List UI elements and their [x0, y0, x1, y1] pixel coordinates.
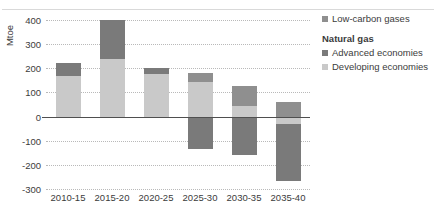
gridline: [46, 189, 310, 190]
bar-group[interactable]: 2035-40: [276, 20, 301, 189]
x-axis-tick-label: 2015-20: [95, 192, 130, 203]
zero-axis-line: [42, 117, 310, 118]
x-axis-tick-label: 2030-35: [227, 192, 262, 203]
bar-segment[interactable]: [188, 82, 213, 117]
x-axis-tick-label: 2025-30: [183, 192, 218, 203]
y-axis-tick-label: -100: [1, 135, 41, 146]
legend-label-advanced-economies: Advanced economies: [332, 47, 423, 58]
x-axis-tick-label: 2035-40: [271, 192, 306, 203]
legend-swatch-icon-advanced: [322, 50, 328, 56]
bar-segment[interactable]: [188, 117, 213, 150]
gridline: [46, 92, 310, 93]
bar-segment[interactable]: [100, 20, 125, 59]
x-axis-tick-label: 2010-15: [51, 192, 86, 203]
bar-segment[interactable]: [232, 106, 257, 117]
bar-segment[interactable]: [276, 117, 301, 124]
legend-item-developing-economies: Developing economies: [322, 60, 434, 73]
y-axis-tick-label: 400: [1, 15, 41, 26]
bar-group[interactable]: 2025-30: [188, 20, 213, 189]
bar-segment[interactable]: [276, 102, 301, 116]
gridline: [46, 44, 310, 45]
legend-group-heading-natural-gas: Natural gas: [322, 32, 434, 45]
y-axis-tick-label: -300: [1, 184, 41, 195]
legend-label-developing-economies: Developing economies: [332, 61, 428, 72]
legend-item-low-carbon-gases: Low-carbon gases: [322, 12, 434, 25]
legend-item-advanced-economies: Advanced economies: [322, 46, 434, 59]
cropped-title: [0, 0, 436, 5]
y-axis-tick-label: 0: [1, 111, 41, 122]
gridline: [46, 20, 310, 21]
y-axis-tick-label: 100: [1, 87, 41, 98]
bar-group[interactable]: 2030-35: [232, 20, 257, 189]
gridline: [46, 141, 310, 142]
legend-swatch-icon-low-carbon: [322, 16, 328, 22]
bar-segment[interactable]: [232, 117, 257, 156]
gridline: [46, 165, 310, 166]
bar-segment[interactable]: [56, 76, 81, 117]
chart-figure: Mtoe 4003002001000-100-200-300 2010-1520…: [0, 0, 436, 219]
bar-group[interactable]: 2015-20: [100, 20, 125, 189]
bar-segment[interactable]: [276, 124, 301, 181]
bar-segment[interactable]: [144, 68, 169, 74]
bar-group[interactable]: 2010-15: [56, 20, 81, 189]
bar-segment[interactable]: [188, 73, 213, 81]
bar-segment[interactable]: [144, 74, 169, 116]
bar-segment[interactable]: [100, 59, 125, 117]
legend-label-low-carbon-gases: Low-carbon gases: [332, 13, 410, 24]
x-axis-tick-label: 2020-25: [139, 192, 174, 203]
plot-area: 4003002001000-100-200-300 2010-152015-20…: [46, 20, 310, 189]
bar-group[interactable]: 2020-25: [144, 20, 169, 189]
y-axis-tick-label: -200: [1, 159, 41, 170]
y-axis-tick-label: 200: [1, 63, 41, 74]
bar-segment[interactable]: [232, 86, 257, 105]
header-divider: [2, 9, 434, 10]
legend-swatch-icon-developing: [322, 64, 328, 70]
chart-legend: Low-carbon gases Natural gas Advanced ec…: [322, 12, 434, 74]
y-axis-tick-label: 300: [1, 39, 41, 50]
bar-segment[interactable]: [56, 63, 81, 75]
gridline: [46, 68, 310, 69]
